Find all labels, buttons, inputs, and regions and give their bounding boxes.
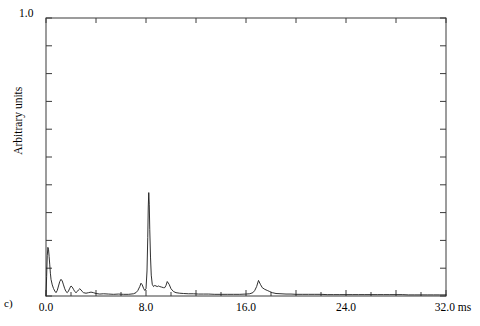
x-axis-tick-label-4: 32.0 ms [435, 302, 471, 314]
axis-frame-rect [46, 18, 446, 296]
x-axis-tick-label-1: 8.0 [139, 302, 153, 314]
y-axis-title: Arbitrary units [13, 61, 25, 181]
panel-label: c) [4, 298, 13, 309]
x-axis-ticks-bottom [46, 290, 446, 296]
axes-frame [46, 18, 446, 296]
plot-area [0, 0, 480, 326]
x-axis-tick-label-0: 0.0 [39, 302, 53, 314]
y-axis-tick-label-top: 1.0 [19, 8, 33, 20]
figure-panel-c: c) Arbitrary units 1.0 0.0 8.0 16.0 24.0… [0, 0, 480, 326]
x-axis-tick-label-3: 24.0 [336, 302, 356, 314]
x-axis-tick-label-2: 16.0 [236, 302, 256, 314]
x-axis-ticks-top [46, 18, 446, 23]
data-series-line [46, 193, 446, 296]
y-axis-ticks-right [440, 18, 446, 296]
